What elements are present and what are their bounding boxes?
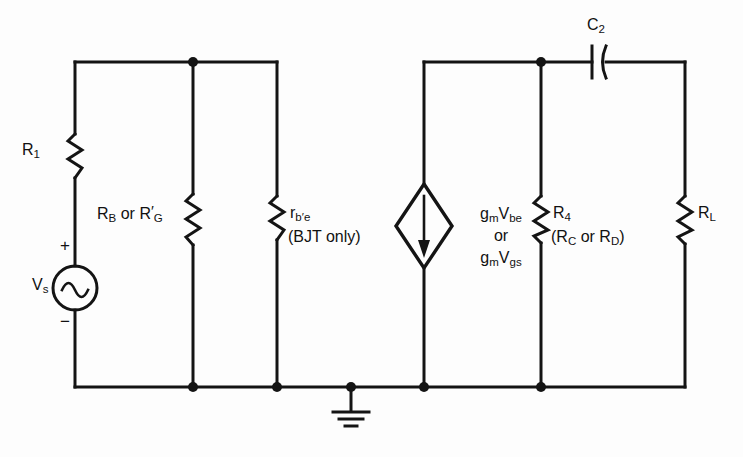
dependent-source-arrow-head	[418, 240, 430, 258]
resistor-r1-symbol	[68, 134, 82, 178]
junction-dot-top-rb	[188, 57, 198, 67]
junction-dot-ground	[346, 382, 356, 392]
resistor-rb-symbol	[186, 194, 200, 245]
label-rbe: rb′e	[290, 204, 310, 224]
junction-dot-bottom-r4	[536, 382, 546, 392]
label-vs: Vs	[32, 276, 48, 296]
label-or-middle: or	[459, 227, 543, 246]
circuit-diagram: R1 RB or R′G rb′e (BJT only) Vs + − gmVb…	[0, 0, 743, 457]
resistor-rbe-symbol	[270, 196, 284, 240]
label-rl: RL	[698, 204, 716, 224]
junction-dot-bottom-rbe	[272, 382, 282, 392]
junction-dot-bottom-rb	[188, 382, 198, 392]
ac-source-sine-icon	[62, 283, 88, 297]
label-rb-or-rg: RB or R′G	[97, 202, 163, 226]
label-r1: R1	[22, 141, 40, 161]
source-minus-sign: −	[60, 312, 70, 332]
label-gm-vgs: gmVgs	[459, 249, 543, 269]
schematic-wires	[0, 0, 743, 457]
source-plus-sign: +	[60, 236, 70, 256]
label-bjt-only: (BJT only)	[288, 228, 361, 247]
resistor-rl-symbol	[678, 196, 692, 244]
label-gm-vbe: gmVbe	[459, 205, 543, 225]
junction-dot-top-r4	[536, 57, 546, 67]
label-rc-or-rd: (RC or RD)	[551, 228, 625, 248]
junction-dot-bottom-source	[419, 382, 429, 392]
label-c2: C2	[587, 16, 605, 36]
label-r4: R4	[553, 204, 571, 224]
